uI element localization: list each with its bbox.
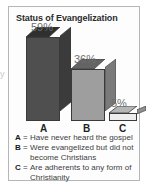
legend-item-c: C = Are adherents to any form of Christi… [15,163,137,177]
legend-separator-b: = [23,143,28,153]
chart-legend: A = Have never heard the gospel B = Were… [15,133,137,177]
legend-text-a: Have never heard the gospel [30,133,137,143]
bar-c-front-face [109,113,137,121]
plot-area: 59% 36% 5% A B C [14,25,136,121]
bar-c-value-label: 5% [111,97,127,109]
bar-a-side-face [60,27,71,111]
legend-text-c: Are adherents to any form of Christianit… [30,163,137,177]
legend-item-b: B = Were evangelized but did not become … [15,143,137,163]
evangelization-chart-figure: y Status of Evangelization [0,0,146,177]
chart-panel: Status of Evangelization [8,6,140,177]
bar-a [26,37,60,121]
bar-a-front-face [26,37,60,121]
bar-b [71,69,105,121]
bar-c [109,113,137,121]
bar-c-side-face [137,106,146,114]
legend-text-b: Were evangelized but did not become Chri… [30,143,137,163]
bar-a-value-label: 59% [31,21,53,33]
legend-separator-a: = [23,133,28,143]
bar-b-front-face [71,69,105,121]
legend-key-b: B [15,143,21,153]
legend-separator-c: = [23,163,28,173]
legend-key-c: C [15,163,21,173]
legend-key-a: A [15,133,21,143]
legend-item-a: A = Have never heard the gospel [15,133,137,143]
bar-b-value-label: 36% [74,53,96,65]
